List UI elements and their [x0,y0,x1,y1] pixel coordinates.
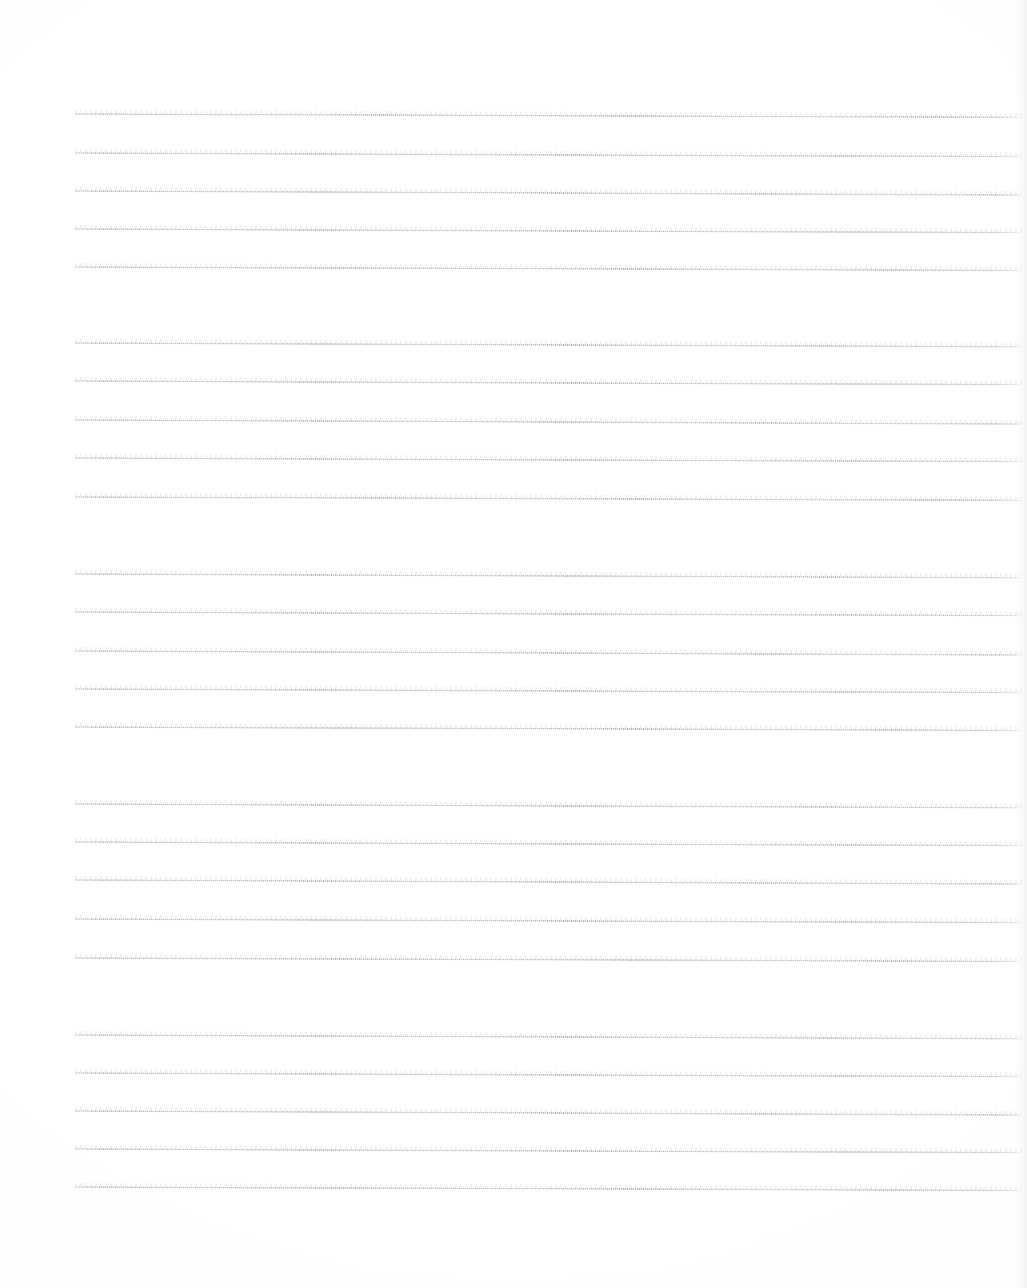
rule-scan-halo [75,339,1022,346]
rule-ink [75,190,1022,196]
ruled-line [75,650,1022,656]
rule-ink [75,1072,1022,1078]
ruled-line [75,726,1022,731]
ruled-line [75,841,1022,847]
rule-scan-halo [75,685,1022,692]
rule-ink [75,611,1022,617]
rule-scan-halo [75,225,1022,232]
rule-scan-halo [75,876,1022,883]
ruled-line [75,803,1022,809]
ruled-line [75,228,1022,234]
ruled-line [75,957,1022,962]
rule-scan-halo [75,838,1022,845]
rule-ink [75,496,1022,501]
rule-scan-halo [75,570,1022,577]
ruled-line [75,1110,1022,1116]
rule-scan-halo [75,1069,1022,1076]
ruled-line [75,573,1022,579]
ruled-line [75,113,1022,118]
ruled-line [75,611,1022,617]
rule-ink [75,726,1022,731]
rule-ink [75,1034,1022,1040]
ruled-line [75,342,1022,348]
rule-scan-halo [75,377,1022,384]
rule-scan-halo [75,1031,1022,1038]
rule-ink [75,342,1022,348]
rule-scan-halo [75,416,1022,423]
rule-ink [75,803,1022,809]
paper-texture [0,0,1027,1288]
ruled-line [75,918,1022,924]
rule-scan-halo [75,915,1022,922]
rule-ink [75,841,1022,847]
ruled-line [75,1072,1022,1078]
ruled-line [75,1148,1022,1154]
rule-ink [75,419,1022,425]
ruled-line [75,419,1022,425]
rule-scan-halo [75,263,1022,269]
rule-scan-halo [75,608,1022,615]
rule-scan-halo [75,493,1022,499]
ruled-line [75,879,1022,885]
rule-scan-halo [75,149,1022,156]
rule-ink [75,457,1022,463]
ruled-line [75,152,1022,158]
rule-ink [75,650,1022,656]
scan-edge-shadow [1015,0,1027,1288]
rule-ink [75,113,1022,118]
rule-ink [75,1186,1022,1191]
rule-scan-halo [75,1183,1022,1189]
rule-scan-halo [75,454,1022,461]
rule-scan-halo [75,647,1022,654]
ruled-line [75,380,1022,386]
ruled-line [75,457,1022,463]
rule-ink [75,228,1022,234]
rule-ink [75,152,1022,158]
rule-ink [75,918,1022,924]
rule-scan-halo [75,187,1022,194]
rule-scan-halo [75,954,1022,960]
rule-ink [75,266,1022,271]
ruled-line [75,496,1022,501]
rule-scan-halo [75,723,1022,729]
ruled-line [75,266,1022,271]
ruled-line [75,1034,1022,1040]
rule-scan-halo [75,110,1022,116]
rule-ink [75,1148,1022,1154]
rule-ink [75,879,1022,885]
scanned-page [0,0,1027,1288]
rule-ink [75,957,1022,962]
rule-ink [75,573,1022,579]
rule-scan-halo [75,1145,1022,1152]
rule-scan-halo [75,800,1022,807]
ruled-line [75,688,1022,694]
rule-ink [75,688,1022,694]
ruled-line [75,1186,1022,1191]
rule-scan-halo [75,1107,1022,1114]
rule-ink [75,380,1022,386]
ruled-line [75,190,1022,196]
rule-ink [75,1110,1022,1116]
